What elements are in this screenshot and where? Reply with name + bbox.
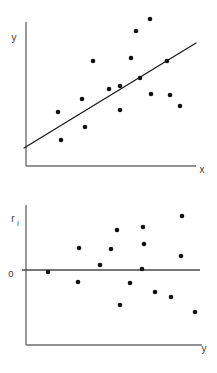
residual-point: [180, 214, 185, 219]
scatter-panel: y x: [12, 17, 205, 175]
scatter-x-axis-label: x: [200, 164, 205, 175]
residual-panel: r i 0 y: [8, 205, 206, 354]
scatter-point: [118, 84, 123, 89]
scatter-point: [118, 108, 123, 113]
residual-x-axis-label: y: [202, 343, 207, 354]
scatter-point: [91, 59, 96, 64]
scatter-point: [80, 97, 85, 102]
scatter-point: [168, 93, 173, 98]
scatter-y-axis-label: y: [12, 32, 17, 43]
residual-point: [142, 242, 147, 247]
scatter-data-points: [56, 17, 183, 143]
residual-point: [118, 303, 123, 308]
residual-point: [179, 254, 184, 259]
residual-point: [141, 225, 146, 230]
residual-point: [115, 228, 120, 233]
figure-container: y x r i 0 y: [0, 0, 217, 373]
residual-point: [193, 310, 198, 315]
scatter-point: [59, 138, 64, 143]
residual-y-axis-label: r: [11, 213, 15, 224]
scatter-point: [138, 76, 143, 81]
residual-point: [128, 281, 133, 286]
residual-point: [76, 280, 81, 285]
scatter-point: [149, 92, 154, 97]
statistics-figure: y x r i 0 y: [0, 0, 217, 373]
residual-data-points: [46, 214, 198, 315]
scatter-point: [134, 29, 139, 34]
residual-point: [109, 247, 114, 252]
residual-point: [77, 246, 82, 251]
residual-point: [153, 290, 158, 295]
residual-point: [169, 295, 174, 300]
scatter-point: [129, 56, 134, 61]
residual-point: [140, 267, 145, 272]
scatter-point: [107, 87, 112, 92]
scatter-point: [83, 125, 88, 130]
scatter-point: [178, 104, 183, 109]
scatter-point: [165, 59, 170, 64]
residual-y-axis-label-subscript: i: [17, 220, 19, 227]
residual-point: [98, 263, 103, 268]
residual-point: [46, 270, 51, 275]
scatter-point: [56, 110, 61, 115]
scatter-point: [148, 17, 153, 22]
residual-zero-tick-label: 0: [8, 268, 13, 279]
